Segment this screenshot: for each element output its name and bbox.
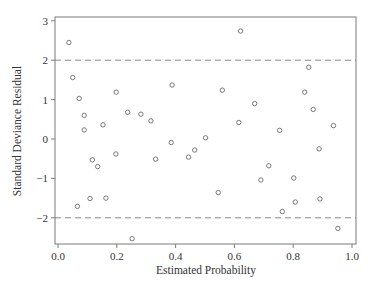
x-tick-label: 1.0 xyxy=(345,250,359,262)
data-point xyxy=(318,197,322,201)
data-point xyxy=(114,90,118,94)
data-point xyxy=(125,110,129,114)
x-tick-label: 0.4 xyxy=(169,250,183,262)
data-point xyxy=(149,119,153,123)
data-point xyxy=(170,83,174,87)
data-point xyxy=(169,140,173,144)
scatter-chart: −2−10123 0.00.20.40.60.81.0 Estimated Pr… xyxy=(0,0,375,294)
y-tick-label: 0 xyxy=(43,133,49,145)
data-point xyxy=(293,200,297,204)
data-point xyxy=(77,96,81,100)
data-point xyxy=(317,147,321,151)
data-point xyxy=(82,128,86,132)
data-point xyxy=(153,157,157,161)
data-point xyxy=(130,236,134,240)
y-tick-label: −1 xyxy=(36,172,48,184)
x-axis: 0.00.20.40.60.81.0 xyxy=(51,244,359,262)
plot-frame xyxy=(55,17,356,244)
x-tick-label: 0.6 xyxy=(228,250,242,262)
data-point xyxy=(336,226,340,230)
data-point xyxy=(307,65,311,69)
data-point xyxy=(237,120,241,124)
y-tick-label: −2 xyxy=(36,212,48,224)
data-point xyxy=(311,107,315,111)
data-point xyxy=(75,204,79,208)
data-point xyxy=(139,112,143,116)
y-tick-label: 1 xyxy=(43,94,49,106)
data-point xyxy=(302,90,306,94)
data-point xyxy=(95,164,99,168)
x-axis-title: Estimated Probability xyxy=(156,264,256,277)
data-point xyxy=(186,155,190,159)
data-point xyxy=(67,40,71,44)
y-axis: −2−10123 xyxy=(36,15,55,224)
data-point xyxy=(193,148,197,152)
data-point xyxy=(292,176,296,180)
data-point xyxy=(216,190,220,194)
data-point xyxy=(82,113,86,117)
data-point xyxy=(90,158,94,162)
data-point xyxy=(267,164,271,168)
data-point xyxy=(277,128,281,132)
y-tick-label: 2 xyxy=(43,54,49,66)
data-point xyxy=(331,123,335,127)
x-tick-label: 0.0 xyxy=(51,250,65,262)
data-point xyxy=(101,123,105,127)
data-point xyxy=(71,75,75,79)
y-tick-label: 3 xyxy=(43,15,49,27)
data-point xyxy=(238,29,242,33)
data-point xyxy=(203,136,207,140)
x-tick-label: 0.8 xyxy=(286,250,300,262)
data-point xyxy=(220,88,224,92)
data-point xyxy=(88,196,92,200)
data-point xyxy=(114,152,118,156)
data-point xyxy=(252,101,256,105)
data-point xyxy=(259,178,263,182)
data-point xyxy=(280,209,284,213)
y-axis-title: Standard Deviance Residual xyxy=(11,66,23,196)
data-point xyxy=(104,196,108,200)
reference-lines xyxy=(55,60,356,218)
x-tick-label: 0.2 xyxy=(110,250,124,262)
